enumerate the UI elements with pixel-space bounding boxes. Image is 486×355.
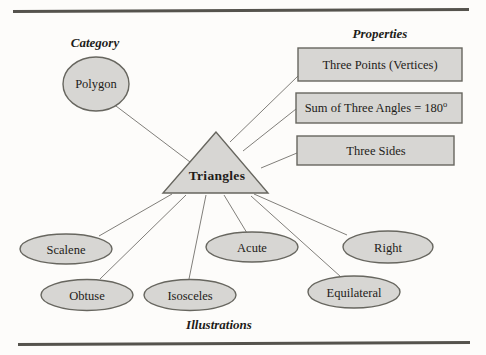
- triangles-node-label: Triangles: [189, 168, 245, 183]
- triangles-node-shape: [163, 132, 268, 193]
- connector-polygon-triangles: [112, 103, 190, 162]
- node-scalene: Scalene: [20, 234, 112, 264]
- bottom-rule: [18, 343, 470, 345]
- connector-triangles-three-sides: [261, 153, 297, 168]
- node-right-label: Right: [374, 241, 402, 255]
- node-equilateral-label: Equilateral: [327, 286, 382, 300]
- category-title: Category: [71, 35, 120, 50]
- property-box-three-points-label: Three Points (Vertices): [322, 58, 437, 72]
- node-obtuse: Obtuse: [41, 280, 133, 311]
- connector-triangles-sum-angles: [243, 109, 296, 151]
- node-acute: Acute: [206, 232, 298, 262]
- node-obtuse-label: Obtuse: [69, 289, 105, 303]
- triangles-node: Triangles: [163, 132, 268, 193]
- connector-triangles-isosceles: [189, 195, 206, 279]
- polygon-node: Polygon: [63, 57, 129, 111]
- property-box-three-sides: Three Sides: [297, 136, 454, 165]
- top-rule: [13, 10, 469, 12]
- connector-triangles-right: [254, 194, 347, 235]
- node-equilateral: Equilateral: [308, 276, 400, 308]
- properties-title: Properties: [353, 26, 408, 41]
- node-acute-label: Acute: [237, 241, 267, 255]
- property-box-three-points: Three Points (Vertices): [298, 48, 462, 81]
- connector-triangles-obtuse: [100, 195, 186, 279]
- node-isosceles-label: Isosceles: [167, 289, 212, 303]
- connector-triangles-scalene: [99, 194, 172, 236]
- connector-triangles-three-points: [230, 76, 298, 142]
- property-box-sum-angles-label: Sum of Three Angles = 180o: [305, 99, 448, 115]
- concept-map: Category Properties Illustrations Polygo…: [0, 0, 486, 355]
- connector-triangles-acute: [224, 195, 247, 233]
- property-box-sum-angles: Sum of Three Angles = 180o: [296, 93, 462, 123]
- node-scalene-label: Scalene: [47, 243, 86, 257]
- illustrations-title: Illustrations: [185, 317, 252, 332]
- property-box-three-sides-label: Three Sides: [346, 144, 405, 158]
- polygon-node-label: Polygon: [75, 77, 117, 91]
- node-right: Right: [343, 231, 433, 263]
- node-isosceles: Isosceles: [144, 280, 236, 311]
